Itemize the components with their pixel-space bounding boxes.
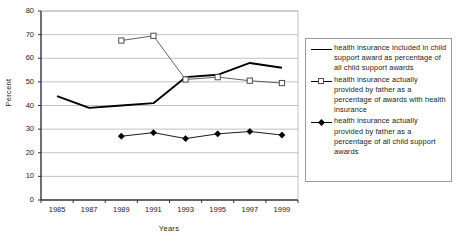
data-point-marker [279,80,284,85]
legend-label-2: health insurance actually provided by fa… [334,75,447,116]
legend-label-3: health insurance actually provided by fa… [334,116,447,157]
filled-diamond-swatch-icon [309,117,334,128]
gridlines [41,11,298,176]
data-series-layer [57,33,285,141]
legend-entry-2: health insurance actually provided by fa… [309,75,447,116]
data-point-marker [183,77,188,82]
data-point-marker [279,132,285,138]
series-line-3 [121,131,282,138]
chart-container: Percent Years 01020304050607080 19851987… [0,0,457,240]
chart-legend: health insurance included in child suppo… [305,38,452,182]
open-square-swatch-icon [309,76,334,87]
data-point-marker [150,130,156,136]
data-point-marker [215,75,220,80]
legend-label-1: health insurance included in child suppo… [334,43,447,74]
data-point-marker [215,131,221,137]
data-point-marker [151,33,156,38]
legend-entry-3: health insurance actually provided by fa… [309,116,447,157]
data-point-marker [182,135,188,141]
series-line-1 [57,63,282,108]
data-point-marker [118,133,124,139]
thick-line-swatch-icon [309,44,334,55]
data-point-marker [119,38,124,43]
data-point-marker [247,78,252,83]
legend-entry-1: health insurance included in child suppo… [309,43,447,74]
